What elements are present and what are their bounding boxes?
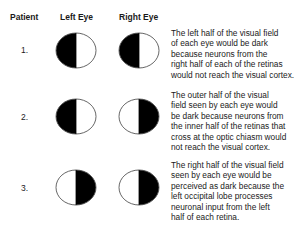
header-left-eye: Left Eye: [60, 12, 93, 22]
right-eye-visual-field-icon: [118, 98, 160, 135]
patient-number: 1.: [21, 45, 28, 55]
left-eye-visual-field-icon: [55, 169, 97, 206]
patient-number: 2.: [21, 112, 28, 122]
right-eye-visual-field-icon: [118, 32, 160, 69]
row-description: The left half of the visual field of eac…: [171, 28, 299, 80]
header-right-eye: Right Eye: [119, 12, 158, 22]
header-patient: Patient: [10, 12, 38, 22]
row-description: The outer half of the visual field seen …: [171, 90, 299, 152]
patient-number: 3.: [21, 183, 28, 193]
row-description: The right half of the visual field seen …: [171, 160, 299, 222]
left-eye-visual-field-icon: [55, 32, 97, 69]
left-eye-visual-field-icon: [55, 98, 97, 135]
right-eye-visual-field-icon: [118, 169, 160, 206]
